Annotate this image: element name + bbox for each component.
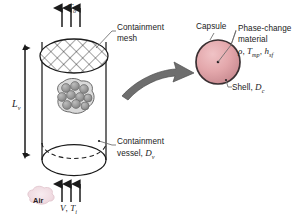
containment-mesh-label-line2: mesh <box>117 34 164 45</box>
capsule-label: Capsule <box>196 22 226 33</box>
pcm-melt-temperature-subscript: mp <box>252 51 260 58</box>
magnify-detail-arrow <box>122 62 194 100</box>
containment-mesh-label: Containment mesh <box>117 23 164 44</box>
vessel-hidden-edge <box>42 143 106 159</box>
vessel-length-label: Lv <box>12 99 20 114</box>
pcm-label-line1: Phase-change <box>238 24 291 35</box>
shell-diameter-subscript: c <box>262 87 265 94</box>
outlet-temperature-subscript: o <box>73 7 76 14</box>
containment-vessel-label-line2: vessel, Dv <box>117 148 164 162</box>
vessel-diameter-subscript: v <box>152 152 155 159</box>
inlet-temperature-subscript: i <box>75 208 77 215</box>
vessel-length-subscript: v <box>18 104 21 111</box>
air-label: Air <box>33 196 44 205</box>
vessel-length-dimension-line <box>22 44 29 159</box>
pcm-label-line2: material <box>238 35 291 46</box>
containment-mesh-label-line1: Containment <box>117 23 164 34</box>
containment-vessel-label-line1: Containment <box>117 137 164 148</box>
shell-label-prefix: Shell, <box>232 83 255 92</box>
phase-change-material-label: Phase-change material ρ, Tmp, hsf <box>238 24 291 60</box>
containment-vessel-label: Containment vessel, Dv <box>117 137 164 162</box>
capsule-packed-bed <box>58 78 94 113</box>
figure-canvas: To Containment mesh Containment vessel, … <box>0 0 308 218</box>
pcm-properties: ρ, Tmp, hsf <box>238 46 291 60</box>
shell-label: Shell, Dc <box>232 82 264 96</box>
inlet-air-arrows <box>62 184 80 202</box>
containment-vessel-label-prefix: vessel, <box>117 149 145 158</box>
pcm-latent-heat-subscript: sf <box>269 51 273 58</box>
capsule-bed-spheres <box>58 82 92 110</box>
capsule-detail <box>196 30 240 87</box>
inlet-conditions-label: V, Ti <box>60 203 77 217</box>
outlet-temperature-label: To <box>68 2 76 16</box>
containment-mesh-disc <box>40 39 108 73</box>
